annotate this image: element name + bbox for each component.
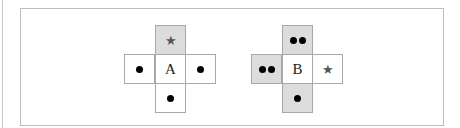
dot-icon [299, 37, 306, 44]
dot-icon [167, 95, 174, 102]
figure-frame: ★ A B ★ [20, 8, 444, 126]
dot-icon [290, 37, 297, 44]
net-b-left-cell [251, 54, 282, 84]
net-b-top-cell [282, 25, 313, 55]
net-a-label: A [165, 61, 176, 78]
net-a-top-cell: ★ [155, 25, 186, 55]
page-edge-line [2, 0, 3, 128]
net-a-center-cell: A [155, 54, 186, 84]
net-a-left-cell [124, 54, 155, 84]
net-a-right-cell [185, 54, 216, 84]
dot-icon [268, 66, 275, 73]
net-b-right-cell: ★ [312, 54, 343, 84]
dot-icon [197, 66, 204, 73]
star-icon: ★ [322, 63, 334, 76]
dot-icon [136, 66, 143, 73]
dot-icon [259, 66, 266, 73]
dot-icon [294, 95, 301, 102]
net-a-bottom-cell [155, 83, 186, 113]
net-b-label: B [292, 61, 302, 78]
net-b-center-cell: B [282, 54, 313, 84]
net-b-bottom-cell [282, 83, 313, 113]
star-icon: ★ [165, 34, 177, 47]
